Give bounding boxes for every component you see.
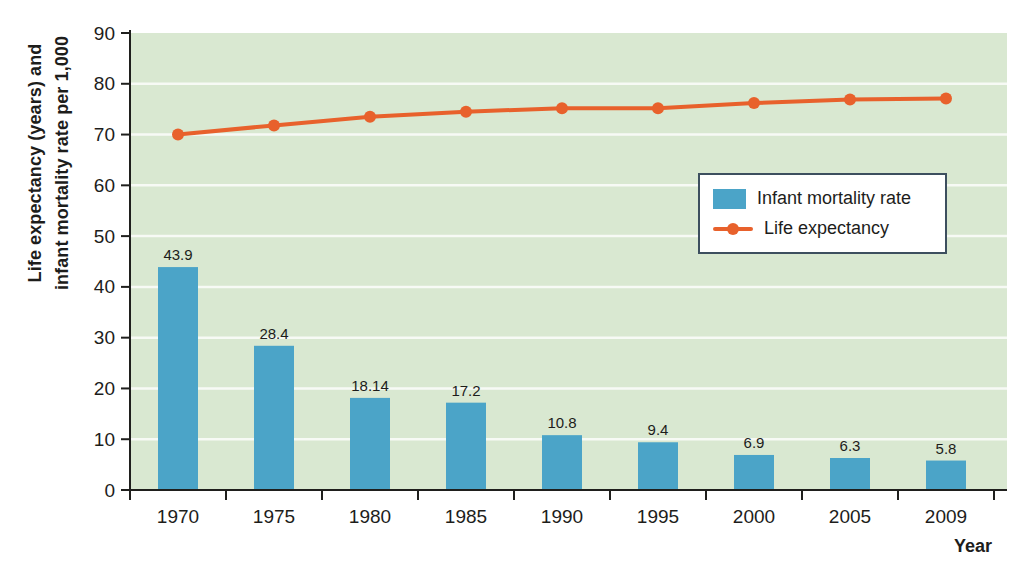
bar-2009 <box>926 461 966 490</box>
bar-1990 <box>542 435 582 490</box>
y-tick-label-90: 90 <box>94 23 115 44</box>
bar-value-label-1980: 18.14 <box>351 377 389 394</box>
line-point-2005 <box>844 94 856 106</box>
bar-2005 <box>830 458 870 490</box>
legend-item-infant-mortality: Infant mortality rate <box>713 188 945 209</box>
line-point-1980 <box>364 111 376 123</box>
line-point-1985 <box>460 106 472 118</box>
y-tick-label-30: 30 <box>94 327 115 348</box>
x-tick-label-2005: 2005 <box>829 506 871 527</box>
line-point-1990 <box>556 102 568 114</box>
bar-1980 <box>350 398 390 490</box>
y-tick-label-40: 40 <box>94 276 115 297</box>
bar-1970 <box>158 267 198 490</box>
y-tick-label-60: 60 <box>94 175 115 196</box>
line-point-1995 <box>652 102 664 114</box>
y-tick-label-10: 10 <box>94 429 115 450</box>
bar-value-label-2009: 5.8 <box>936 440 957 457</box>
bar-value-label-2005: 6.3 <box>840 437 861 454</box>
bar-value-label-1975: 28.4 <box>259 325 288 342</box>
x-tick-label-1970: 1970 <box>157 506 199 527</box>
bar-2000 <box>734 455 774 490</box>
chart-figure: 43.928.418.1417.210.89.46.96.35.80102030… <box>0 0 1030 579</box>
bar-1985 <box>446 403 486 490</box>
x-tick-label-1990: 1990 <box>541 506 583 527</box>
line-point-1975 <box>268 119 280 131</box>
y-tick-label-70: 70 <box>94 124 115 145</box>
x-tick-label-1985: 1985 <box>445 506 487 527</box>
x-tick-label-1975: 1975 <box>253 506 295 527</box>
bar-value-label-1985: 17.2 <box>451 382 480 399</box>
x-tick-label-1995: 1995 <box>637 506 679 527</box>
y-tick-label-80: 80 <box>94 73 115 94</box>
y-tick-label-0: 0 <box>104 480 115 501</box>
y-tick-label-20: 20 <box>94 378 115 399</box>
y-axis-title: Life expectancy (years) and infant morta… <box>22 36 76 290</box>
y-axis-title-line2: infant mortality rate per 1,000 <box>49 36 76 290</box>
x-tick-label-2009: 2009 <box>925 506 967 527</box>
bar-1975 <box>254 346 294 490</box>
bar-value-label-1995: 9.4 <box>648 421 669 438</box>
bar-value-label-1990: 10.8 <box>547 414 576 431</box>
legend: Infant mortality rate Life expectancy <box>698 173 947 254</box>
legend-label-infant-mortality: Infant mortality rate <box>757 188 911 209</box>
bar-swatch-icon <box>713 189 746 209</box>
line-point-2009 <box>940 93 952 105</box>
x-axis-title: Year <box>954 536 992 557</box>
x-tick-label-1980: 1980 <box>349 506 391 527</box>
y-axis-title-line1: Life expectancy (years) and <box>22 36 49 290</box>
line-point-2000 <box>748 97 760 109</box>
bar-1995 <box>638 442 678 490</box>
legend-label-life-expectancy: Life expectancy <box>764 218 889 239</box>
chart-plot: 43.928.418.1417.210.89.46.96.35.80102030… <box>0 0 1030 579</box>
line-point-1970 <box>172 129 184 141</box>
bar-value-label-1970: 43.9 <box>163 246 192 263</box>
y-tick-label-50: 50 <box>94 226 115 247</box>
x-tick-label-2000: 2000 <box>733 506 775 527</box>
legend-item-life-expectancy: Life expectancy <box>713 218 945 239</box>
bar-value-label-2000: 6.9 <box>744 434 765 451</box>
line-marker-swatch-icon <box>713 222 753 236</box>
